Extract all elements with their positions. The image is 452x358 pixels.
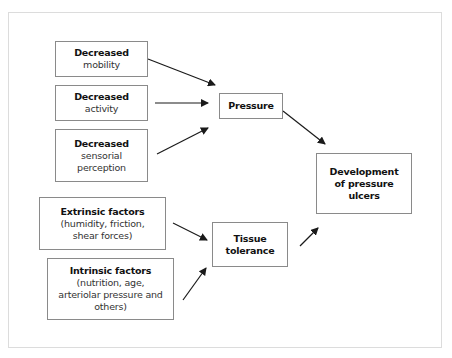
node-line: shear forces) xyxy=(73,230,133,242)
node-line: activity xyxy=(85,103,118,115)
node-title: Tissue xyxy=(233,233,266,245)
node-line: arteriolar pressure and xyxy=(58,289,162,301)
node-line: sensorial xyxy=(81,150,122,162)
node-decreased-mobility: Decreased mobility xyxy=(55,41,148,77)
node-line: mobility xyxy=(83,59,120,71)
node-decreased-sensorial-perception: Decreased sensorial perception xyxy=(55,129,148,182)
node-intrinsic-factors: Intrinsic factors (nutrition, age, arter… xyxy=(47,258,174,320)
node-title: Decreased xyxy=(74,138,129,150)
node-line: (humidity, friction, xyxy=(60,218,144,230)
node-development: Development of pressure ulcers xyxy=(316,153,412,214)
node-tissue-tolerance: Tissue tolerance xyxy=(212,222,288,267)
node-line: ulcers xyxy=(348,190,379,202)
node-line: perception xyxy=(77,162,126,174)
node-title: Decreased xyxy=(74,47,129,59)
node-line: of pressure xyxy=(335,178,394,190)
node-line: tolerance xyxy=(226,245,275,257)
node-decreased-activity: Decreased activity xyxy=(55,85,148,121)
node-title: Intrinsic factors xyxy=(70,265,152,277)
node-pressure: Pressure xyxy=(219,93,283,119)
node-title: Pressure xyxy=(228,100,274,112)
node-line: (nutrition, age, xyxy=(77,277,145,289)
node-extrinsic-factors: Extrinsic factors (humidity, friction, s… xyxy=(39,197,166,250)
node-line: others) xyxy=(94,301,127,313)
node-title: Decreased xyxy=(74,91,129,103)
node-title: Development xyxy=(330,166,399,178)
node-title: Extrinsic factors xyxy=(61,206,145,218)
